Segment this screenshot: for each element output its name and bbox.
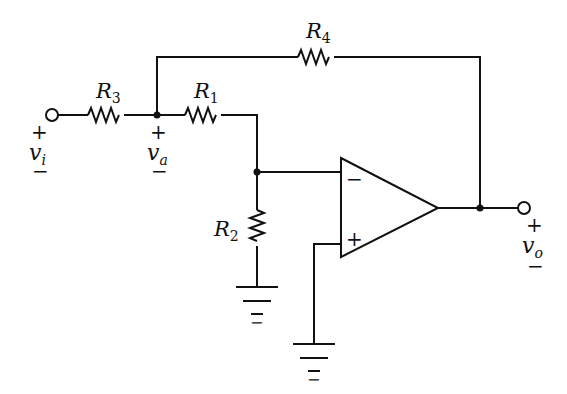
label-r4: R4: [305, 19, 331, 46]
label-r3: R3: [95, 79, 121, 106]
wire: [157, 57, 298, 115]
resistor-r1: [185, 108, 216, 122]
resistor-r4: [298, 50, 329, 64]
label-r1: R1: [193, 79, 219, 106]
resistor-r2: [250, 210, 264, 241]
wire: [221, 115, 341, 172]
ground-symbol: [236, 287, 278, 314]
input-terminal: [46, 109, 58, 121]
resistor-r3: [88, 108, 119, 122]
opamp-noninverting-sign: +: [346, 227, 363, 251]
circuit-diagram: R3 R1 R4 R2 + vi − + va − + vo − − + − −: [0, 0, 567, 394]
ground-symbol: [293, 344, 335, 371]
node-va: [154, 112, 161, 119]
vi-minus: −: [32, 159, 49, 183]
ground-mark: −: [307, 370, 320, 389]
wire: [314, 244, 341, 344]
opamp-inverting-sign: −: [346, 167, 363, 191]
node-inverting: [254, 169, 261, 176]
va-minus: −: [151, 159, 168, 183]
vo-minus: −: [527, 254, 544, 278]
node-output: [477, 205, 484, 212]
label-r2: R2: [213, 217, 239, 244]
ground-mark: −: [250, 313, 263, 332]
circuit-schematic: R3 R1 R4 R2 + vi − + va − + vo − − + − −: [0, 0, 567, 394]
